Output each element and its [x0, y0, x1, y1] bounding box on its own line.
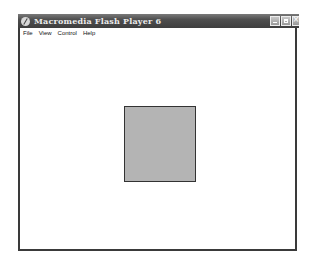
menu-control[interactable]: Control — [58, 28, 77, 38]
minimize-button[interactable] — [270, 16, 280, 26]
flash-player-icon[interactable] — [21, 17, 30, 26]
gray-square-shape — [124, 106, 196, 182]
title-bar[interactable]: Macromedia Flash Player 6 — [18, 14, 299, 28]
menu-file[interactable]: File — [23, 28, 33, 38]
window-controls — [270, 16, 299, 26]
maximize-button[interactable] — [281, 16, 291, 26]
window-title: Macromedia Flash Player 6 — [34, 16, 161, 26]
close-button[interactable] — [292, 16, 299, 26]
flash-stage[interactable] — [20, 38, 295, 249]
flash-player-window: Macromedia Flash Player 6 File View Cont… — [18, 14, 297, 251]
menu-help[interactable]: Help — [83, 28, 95, 38]
menu-view[interactable]: View — [39, 28, 52, 38]
menu-bar: File View Control Help — [20, 28, 295, 38]
